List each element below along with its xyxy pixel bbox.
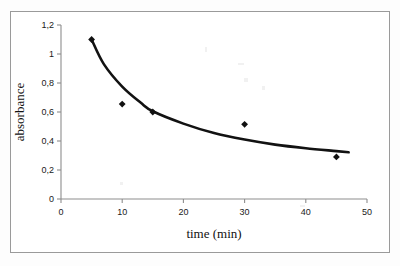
x-axis-tick-label: 50: [362, 207, 372, 217]
x-axis-tick-label: 10: [117, 207, 127, 217]
plot-area: 00,20,40,60,811,2 01020304050 time (min)…: [0, 0, 400, 266]
y-axis-tick-label: 1: [28, 49, 54, 59]
y-axis-tick-label: 0,8: [28, 78, 54, 88]
y-axis-tick-label: 0,2: [28, 165, 54, 175]
chart-screenshot: 00,20,40,60,811,2 01020304050 time (min)…: [0, 0, 400, 266]
data-point-markers: [88, 36, 340, 160]
y-axis-title: absorbance: [12, 83, 28, 141]
y-axis-tick-label: 1,2: [28, 20, 54, 30]
x-axis-tick-label: 30: [240, 207, 250, 217]
trendline-curve: [92, 40, 349, 153]
data-point-marker: [119, 101, 126, 108]
data-point-marker: [333, 154, 340, 161]
x-axis-tick-label: 0: [58, 207, 63, 217]
y-axis-ticks: [57, 25, 61, 199]
x-axis-ticks: [61, 199, 367, 203]
y-axis-tick-label: 0: [28, 194, 54, 204]
x-axis-title: time (min): [186, 226, 241, 242]
x-axis-tick-label: 40: [301, 207, 311, 217]
x-axis-tick-label: 20: [178, 207, 188, 217]
data-point-marker: [241, 121, 248, 128]
y-axis-tick-label: 0,4: [28, 136, 54, 146]
y-axis-tick-label: 0,6: [28, 107, 54, 117]
